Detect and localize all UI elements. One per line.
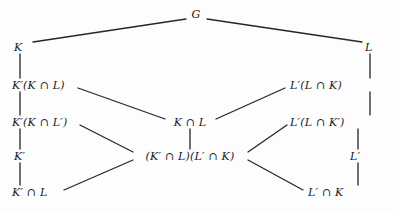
edge-g-k: [33, 19, 186, 42]
lattice-node-G: G: [192, 9, 201, 20]
lattice-node-LpLKp: L′(L ∩ K′): [290, 117, 345, 128]
lattice-node-Lp: L′: [350, 151, 360, 162]
edge-kpklp-prod: [80, 125, 133, 152]
edge-lpk-prod: [248, 160, 303, 190]
lattice-node-KpL: K′ ∩ L: [12, 187, 47, 198]
edge-kpkl-kl: [78, 88, 165, 119]
edge-g-l: [207, 19, 362, 42]
lattice-node-KpKL: K′(K ∩ L): [12, 80, 65, 91]
edge-lplkp-prod: [248, 125, 287, 152]
edge-lplk-kl: [216, 88, 285, 119]
lattice-node-LpK: L′ ∩ K: [308, 187, 343, 198]
lattice-node-L: L: [365, 42, 373, 53]
lattice-node-Kp: K′: [14, 151, 25, 162]
lattice-node-K: K: [14, 42, 22, 53]
lattice-node-KL: K ∩ L: [174, 117, 207, 128]
lattice-node-LpLK: L′(L ∩ K): [290, 80, 342, 91]
lattice-node-KpKLp: K′(K ∩ L′): [12, 117, 68, 128]
lattice-diagram: GKLK′(K ∩ L)L′(L ∩ K)K′(K ∩ L′)K ∩ LL′(L…: [0, 0, 398, 213]
edge-kpl-prod: [64, 160, 133, 190]
lattice-node-prod: (K′ ∩ L)(L′ ∩ K): [146, 151, 235, 162]
lattice-edges: [0, 0, 398, 213]
